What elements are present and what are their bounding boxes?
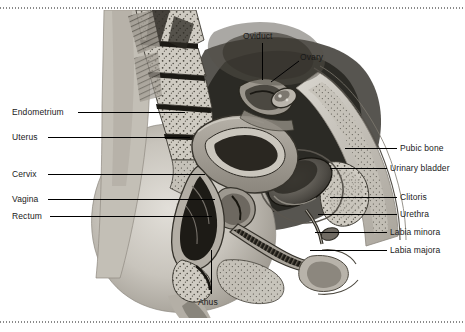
label-labia-majora: Labia majora [390, 245, 440, 255]
top-dotted-rule [0, 7, 465, 9]
leader-cervix [48, 174, 205, 175]
label-urethra: Urethra [400, 209, 429, 219]
label-endometrium: Endometrium [12, 107, 64, 117]
label-anus: Anus [198, 297, 218, 307]
leader-endometrium [78, 112, 185, 113]
figure-container: Endometrium Uterus Cervix Vagina Rectum … [0, 0, 465, 332]
leader-ovary [265, 58, 305, 86]
label-ovary: Ovary [300, 52, 323, 62]
leader-urinary-bladder [330, 168, 387, 169]
leader-oviduct [262, 43, 263, 80]
leader-clitoris [330, 197, 397, 198]
leader-urethra [318, 214, 397, 215]
bottom-dotted-rule [0, 321, 465, 323]
leader-rectum [50, 216, 212, 217]
leader-labia-majora [310, 250, 387, 251]
leader-vagina [48, 199, 215, 200]
label-oviduct: Oviduct [243, 31, 273, 41]
leader-anus [211, 250, 212, 294]
label-uterus: Uterus [12, 132, 38, 142]
label-urinary-bladder: Urinary bladder [390, 163, 450, 173]
leader-uterus [48, 137, 190, 138]
leader-labia-minora [315, 232, 387, 233]
label-clitoris: Clitoris [400, 192, 427, 202]
label-labia-minora: Labia minora [390, 227, 440, 237]
leader-pubic-bone [345, 148, 397, 149]
label-vagina: Vagina [12, 194, 38, 204]
label-rectum: Rectum [12, 211, 42, 221]
label-cervix: Cervix [12, 169, 37, 179]
label-pubic-bone: Pubic bone [400, 143, 444, 153]
